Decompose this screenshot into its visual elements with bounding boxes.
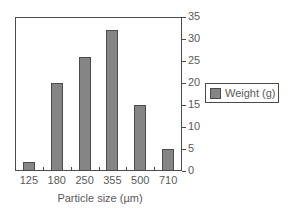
x-tick bbox=[99, 167, 100, 171]
x-tick bbox=[43, 167, 44, 171]
y-tick-label: 5 bbox=[188, 143, 194, 154]
x-tick-label: 355 bbox=[97, 175, 127, 186]
legend-swatch bbox=[210, 88, 221, 99]
x-tick-label: 180 bbox=[42, 175, 72, 186]
x-tick-label: 250 bbox=[70, 175, 100, 186]
y-tick-label: 10 bbox=[188, 121, 200, 132]
bar-355 bbox=[106, 30, 118, 171]
y-tick-label: 35 bbox=[188, 11, 200, 22]
y-tick-label: 25 bbox=[188, 55, 200, 66]
x-tick-label: 125 bbox=[14, 175, 44, 186]
y-tick-label: 20 bbox=[188, 77, 200, 88]
bar-710 bbox=[162, 149, 174, 171]
bar-125 bbox=[23, 162, 35, 171]
y-tick bbox=[182, 39, 186, 40]
x-axis-title: Particle size (µm) bbox=[40, 192, 160, 204]
x-tick bbox=[71, 167, 72, 171]
y-tick bbox=[182, 149, 186, 150]
y-tick-label: 0 bbox=[188, 165, 194, 176]
plot-area bbox=[15, 17, 182, 171]
y-tick-label: 15 bbox=[188, 99, 200, 110]
x-tick-label: 710 bbox=[153, 175, 183, 186]
bar-180 bbox=[51, 83, 63, 171]
y-tick bbox=[182, 17, 186, 18]
bar-500 bbox=[134, 105, 146, 171]
y-tick bbox=[182, 105, 186, 106]
y-tick bbox=[182, 83, 186, 84]
y-tick-label: 30 bbox=[188, 33, 200, 44]
legend: Weight (g) bbox=[205, 83, 279, 103]
x-tick bbox=[154, 167, 155, 171]
y-tick bbox=[182, 171, 186, 172]
x-tick bbox=[126, 167, 127, 171]
y-tick bbox=[182, 61, 186, 62]
x-tick-label: 500 bbox=[125, 175, 155, 186]
legend-label: Weight (g) bbox=[225, 87, 276, 99]
bar-250 bbox=[79, 57, 91, 171]
y-tick bbox=[182, 127, 186, 128]
